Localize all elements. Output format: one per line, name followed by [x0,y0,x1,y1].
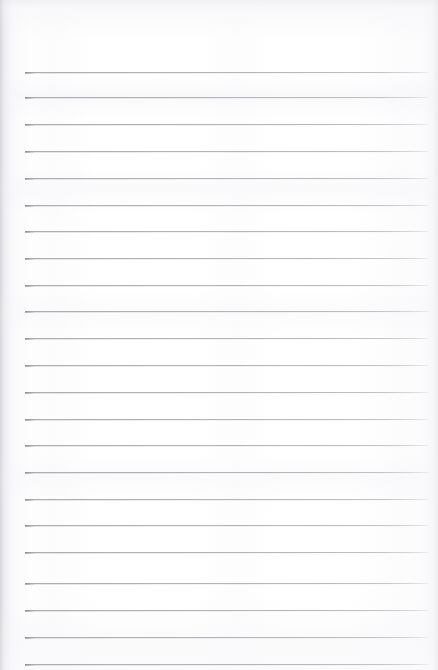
rule-line [25,258,428,259]
rule-line [25,499,428,500]
rule-line [25,445,428,446]
rule-line [25,97,428,98]
rule-line [25,311,428,312]
notepad-page [0,0,438,670]
rule-line [25,338,428,339]
rule-line [25,365,428,366]
rule-line [25,637,428,638]
rule-line [25,583,428,584]
rule-line [25,231,428,232]
rule-line [25,525,428,526]
rule-line [25,285,428,286]
rule-line [25,151,428,152]
rule-line [25,124,428,125]
rule-line [25,664,428,665]
rule-line [25,72,428,73]
rule-line [25,178,428,179]
rule-line [25,610,428,611]
rule-line [25,205,428,206]
rule-line [25,419,428,420]
rule-line [25,392,428,393]
rule-line [25,472,428,473]
rule-line [25,552,428,553]
ruled-lines [0,0,438,670]
